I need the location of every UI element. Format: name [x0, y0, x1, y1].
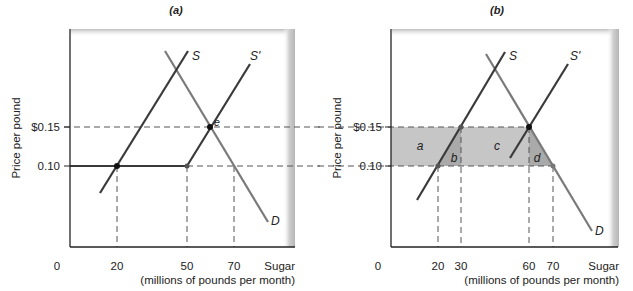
- panel-b-frame-top-shade: [392, 29, 618, 37]
- panel-b-label-s: S: [509, 49, 517, 63]
- panel-a-xtick-70: 70: [228, 260, 241, 272]
- panel-a-title: (a): [169, 4, 183, 16]
- panel-b-label-d: d: [534, 151, 541, 165]
- panel-b-xtick-20: 20: [432, 260, 445, 272]
- panel-b-label-b: b: [451, 151, 458, 165]
- panel-a: (a) S S' D e $0.15 0.10: [10, 4, 320, 286]
- panel-b-xtick-0: 0: [375, 260, 381, 272]
- panel-a-xlabel: Sugar: [264, 260, 295, 272]
- panel-b-frame-right-shade: [607, 29, 619, 247]
- panel-a-ylabel: Price per pound: [10, 97, 22, 178]
- panel-a-demand-curve: [165, 51, 268, 222]
- panel-a-supply-curve: [100, 51, 188, 193]
- panel-a-xtick-50: 50: [181, 260, 194, 272]
- panel-a-ytick-015: $0.15: [31, 121, 60, 133]
- panel-b-ytick-015: $0.15: [353, 121, 382, 133]
- panel-b-xtick-70: 70: [547, 260, 560, 272]
- panel-a-label-s: S: [192, 49, 200, 63]
- panel-a-point-20: [114, 163, 120, 169]
- panel-b-title: (b): [490, 4, 504, 16]
- panel-b-xtick-30: 30: [455, 260, 468, 272]
- panel-b-label-c: c: [494, 139, 500, 153]
- panel-a-guides: [64, 127, 320, 247]
- panel-b-label-d-curve: D: [595, 224, 604, 238]
- panel-b-ytick-010: 0.10: [360, 160, 382, 172]
- panel-a-xtick-20: 20: [111, 260, 124, 272]
- panel-a-xtick-0: 0: [54, 260, 60, 272]
- panel-b-point-20: [436, 164, 441, 169]
- panel-b-xlabel-units: (millions of pounds per month): [464, 274, 619, 286]
- panel-b-point-70: [551, 164, 556, 169]
- panel-b-point-60: [526, 124, 532, 130]
- panel-a-label-d: D: [271, 214, 280, 228]
- panel-a-frame-right-shade: [283, 29, 295, 247]
- panel-a-label-e: e: [214, 116, 220, 128]
- panel-a-point-50: [185, 164, 190, 169]
- panel-b-label-a: a: [417, 139, 424, 153]
- panel-b-xtick-60: 60: [523, 260, 536, 272]
- sugar-quota-figure: (a) S S' D e $0.15 0.10: [0, 0, 633, 291]
- panel-b-label-sprime: S': [570, 49, 581, 63]
- panel-a-point-e: [207, 124, 213, 130]
- panel-b: (b) a: [318, 4, 619, 286]
- panel-a-frame-top-shade: [71, 29, 295, 37]
- panel-a-label-sprime: S': [250, 49, 261, 63]
- panel-a-supply-quota-curve: [70, 64, 250, 166]
- panel-b-point-30: [459, 125, 464, 130]
- panel-a-ytick-010: 0.10: [38, 160, 60, 172]
- panel-a-xlabel-units: (millions of pounds per month): [140, 274, 295, 286]
- panel-b-xlabel: Sugar: [588, 260, 619, 272]
- panel-b-ylabel: Price per pound: [331, 97, 343, 178]
